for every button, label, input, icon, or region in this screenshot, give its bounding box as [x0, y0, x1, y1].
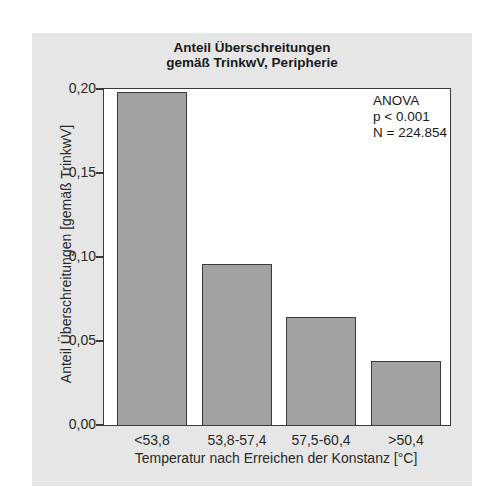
y-tick-3	[96, 172, 104, 174]
y-tick-4	[96, 88, 104, 90]
y-tick-0	[96, 424, 104, 426]
chart-title: Anteil Überschreitungen gemäß TrinkwV, P…	[32, 40, 472, 70]
y-tick-label-0: 0,00	[69, 417, 96, 431]
bar-2	[286, 317, 356, 425]
bar-3	[371, 361, 441, 425]
chart-title-line-2: gemäß TrinkwV, Peripherie	[32, 55, 472, 70]
annotation-n: N = 224.854	[373, 125, 447, 141]
y-tick-2	[96, 256, 104, 258]
y-tick-1	[96, 340, 104, 342]
anova-annotation: ANOVA p < 0.001 N = 224.854	[373, 93, 447, 141]
annotation-test: ANOVA	[373, 93, 447, 109]
y-axis-title: Anteil Überschreitungen [gemäß TrinkwV]	[58, 104, 74, 404]
bar-0	[117, 92, 187, 425]
chart-title-line-1: Anteil Überschreitungen	[32, 40, 472, 55]
bar-1	[202, 264, 272, 425]
x-tick-label-3: >50,4	[356, 432, 456, 448]
x-axis-title: Temperatur nach Erreichen der Konstanz […	[103, 450, 449, 466]
y-tick-label-4: 0,20	[69, 81, 96, 95]
annotation-p-value: p < 0.001	[373, 109, 447, 125]
